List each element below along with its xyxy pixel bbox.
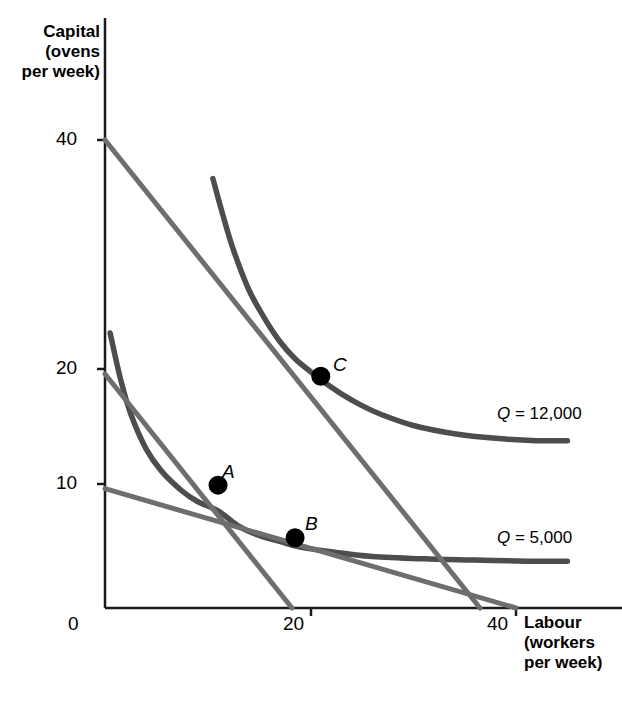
data-point-c xyxy=(311,367,330,386)
q5000-value: = 5,000 xyxy=(510,528,572,547)
isocost-line-isocost-flat xyxy=(105,489,516,608)
isoquant-label-q12000: Q = 12,000 xyxy=(497,404,582,424)
x-tick-label-40: 40 xyxy=(487,613,508,635)
point-label-b: B xyxy=(305,513,318,535)
isoquant-curve-q-12-000 xyxy=(213,179,567,441)
point-label-a: A xyxy=(222,461,235,483)
q-symbol: Q xyxy=(497,528,510,547)
y-tick-label-10: 10 xyxy=(56,472,77,494)
y-axis-title: Capital(ovensper week) xyxy=(8,22,100,82)
chart-canvas xyxy=(0,0,622,708)
data-point-b xyxy=(286,528,305,547)
q12000-value: = 12,000 xyxy=(510,404,581,423)
isoquant-label-q5000: Q = 5,000 xyxy=(497,528,572,548)
y-tick-label-20: 20 xyxy=(56,357,77,379)
isocost-line-isocost-steep-low xyxy=(105,374,292,608)
y-tick-label-40: 40 xyxy=(56,128,77,150)
point-label-c: C xyxy=(333,354,347,376)
x-tick-label-20: 20 xyxy=(283,613,304,635)
chart-axes xyxy=(97,18,622,616)
y-tick-label-0: 0 xyxy=(68,613,79,635)
q-symbol: Q xyxy=(497,404,510,423)
x-axis-title: Labour(workersper week) xyxy=(524,613,620,673)
isoquant-isocost-chart: Capital(ovensper week) Labour(workersper… xyxy=(0,0,622,708)
